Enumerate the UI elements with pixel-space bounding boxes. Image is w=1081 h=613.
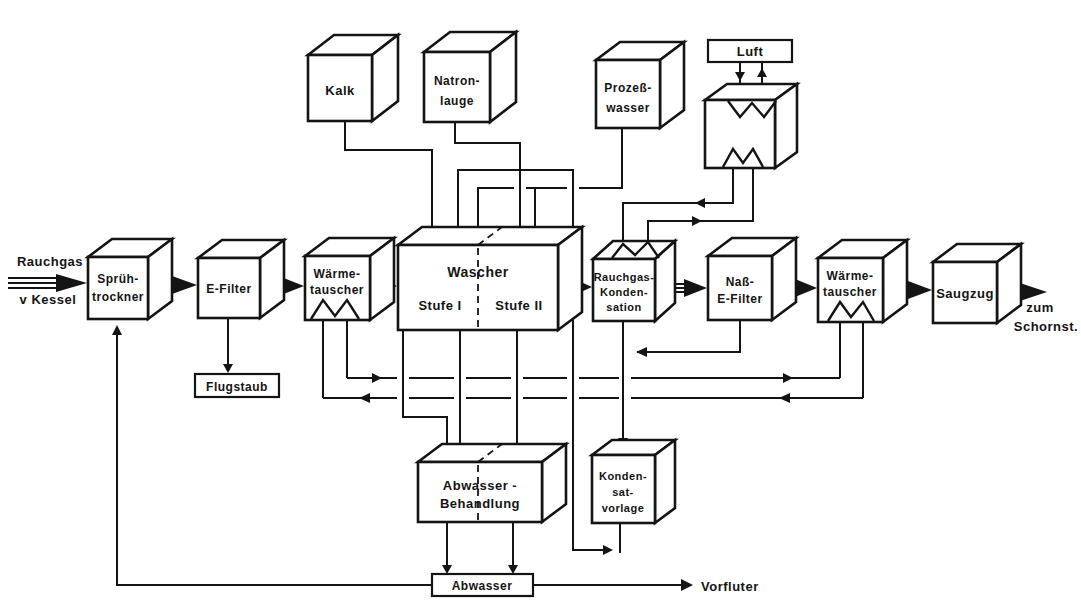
pipe-wascher-drain-1 xyxy=(403,330,447,452)
natronlauge-label-2: lauge xyxy=(440,94,474,108)
rauchgaskondensation-label-2: Konden- xyxy=(600,286,648,298)
arrowhead-right-icon xyxy=(681,579,693,591)
box-wascher: Wascher Stufe I Stufe II xyxy=(398,227,582,330)
waermetauscher2-label-1: Wärme- xyxy=(826,269,873,283)
arrowhead-right-icon xyxy=(603,545,613,555)
rauchgaskondensation-label-3: sation xyxy=(606,301,641,313)
box-kalk: Kalk xyxy=(308,35,398,121)
nassefilter-label-1: Naß- xyxy=(726,275,755,289)
arrowhead-right-icon xyxy=(692,216,702,226)
flow-arrowhead-icon xyxy=(795,279,817,297)
box-natronlauge: Natron- lauge xyxy=(424,32,516,122)
abwasserbehandlung-label-1: Abwasser - xyxy=(443,478,517,493)
process-flow-diagram: Sprüh- trockner E-Filter Wärme- tauscher… xyxy=(0,0,1081,613)
tag-flugstaub: Flugstaub xyxy=(195,374,279,397)
arrowhead-right-icon xyxy=(783,373,793,383)
arrowhead-down-icon xyxy=(508,565,518,574)
abwasserbehandlung-label-2: Behandlung xyxy=(440,496,520,511)
box-prozesswasser: Prozeß- wasser xyxy=(596,42,684,128)
arrowhead-right-icon xyxy=(372,373,382,383)
pipe-kalk-wascher xyxy=(345,121,432,231)
nassefilter-label-2: E-Filter xyxy=(717,292,762,306)
spruehtrockner-label-1: Sprüh- xyxy=(97,272,139,286)
arrowhead-left-icon xyxy=(779,393,790,403)
inlet-label-1: Rauchgas xyxy=(17,254,83,269)
flow-arrowhead-icon xyxy=(684,279,707,297)
outlet-label-1: zum xyxy=(1026,300,1054,315)
box-abwasserbehandlung: Abwasser - Behandlung xyxy=(418,444,566,522)
flugstaub-label: Flugstaub xyxy=(206,380,268,394)
arrowhead-down-icon xyxy=(735,72,745,81)
arrowhead-up-icon xyxy=(757,68,767,77)
pipe-nassefilter-drain xyxy=(637,320,740,352)
kalk-label: Kalk xyxy=(325,83,355,98)
pipe-airhx-to-kondensation xyxy=(623,168,733,243)
tag-luft: Luft xyxy=(708,40,792,62)
box-efilter: E-Filter xyxy=(198,240,284,318)
box-rauchgaskondensation: Rauchgas- Konden- sation xyxy=(593,241,675,321)
saugzug-label: Saugzug xyxy=(936,286,994,301)
flow-arrowhead-icon xyxy=(908,281,932,299)
vorfluter-label: Vorfluter xyxy=(701,579,759,594)
arrowhead-up-icon xyxy=(112,325,122,335)
prozesswasser-label-1: Prozeß- xyxy=(604,81,652,95)
diagram-canvas: Sprüh- trockner E-Filter Wärme- tauscher… xyxy=(0,0,1081,613)
kondensatvorlage-label-2: sat- xyxy=(612,486,634,498)
arrowhead-down-icon xyxy=(442,565,452,574)
kondensatvorlage-label-3: vorlage xyxy=(602,502,645,514)
flow-arrow-inlet xyxy=(8,274,87,292)
box-saugzug: Saugzug xyxy=(933,244,1021,323)
wascher-stage1-label: Stufe I xyxy=(418,298,461,313)
wascher-stage2-label: Stufe II xyxy=(495,298,542,313)
flow-arrowhead-icon xyxy=(1020,283,1047,301)
flow-arrowhead-icon xyxy=(172,276,197,294)
box-nassefilter: Naß- E-Filter xyxy=(708,238,796,320)
spruehtrockner-label-2: trockner xyxy=(92,290,144,304)
prozesswasser-label-2: wasser xyxy=(605,101,650,115)
waermetauscher2-label-2: tauscher xyxy=(823,285,877,299)
outlet-label-2: Schornst. xyxy=(1014,319,1078,334)
kondensatvorlage-label-1: Konden- xyxy=(599,470,647,482)
arrowhead-down-icon xyxy=(223,364,233,373)
box-waermetauscher-1: Wärme- tauscher xyxy=(305,238,394,320)
box-air-heat-exchanger xyxy=(705,84,797,168)
arrowhead-left-icon xyxy=(695,198,705,208)
box-kondensatvorlage: Konden- sat- vorlage xyxy=(592,440,675,523)
tag-abwasser: Abwasser xyxy=(432,574,533,596)
efilter-label: E-Filter xyxy=(206,282,251,296)
wascher-title: Wascher xyxy=(447,264,508,280)
abwasser-label: Abwasser xyxy=(452,579,513,593)
inlet-label-2: v Kessel xyxy=(20,292,77,307)
box-spruehtrockner: Sprüh- trockner xyxy=(88,239,172,319)
pipe-abwasser-recycle xyxy=(117,334,432,585)
rauchgaskondensation-label-1: Rauchgas- xyxy=(594,271,655,283)
arrowhead-left-icon xyxy=(636,347,647,357)
waermetauscher1-label-2: tauscher xyxy=(310,283,364,297)
natronlauge-label-1: Natron- xyxy=(434,74,480,88)
arrowhead-left-icon xyxy=(359,393,370,403)
pipe-natronlauge-wascher xyxy=(455,122,520,231)
luft-label: Luft xyxy=(737,44,764,59)
waermetauscher1-label-1: Wärme- xyxy=(313,267,360,281)
box-waermetauscher-2: Wärme- tauscher xyxy=(818,240,907,322)
flow-arrowhead-icon xyxy=(56,274,87,292)
